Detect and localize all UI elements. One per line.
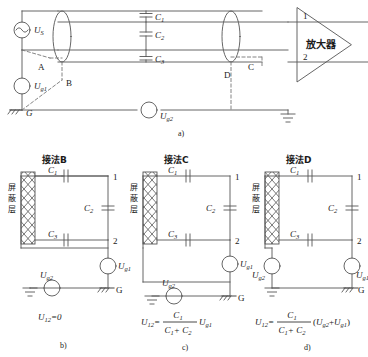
circuit-d-group (264, 170, 360, 296)
c-c2-label: C2 (206, 203, 216, 214)
d-ug2-label: Ug2 (252, 270, 266, 281)
svg-text:C1: C1 (287, 310, 296, 321)
c-ug2-label: Ug2 (162, 278, 176, 289)
b-g-label: G (116, 285, 123, 295)
shield-layer-c (143, 172, 157, 244)
svg-text:C1+ C2: C1+ C2 (165, 325, 193, 336)
ug2-source-symbol (141, 102, 157, 118)
d-terminal-1-label: 1 (357, 172, 362, 182)
circuit-b-group (21, 170, 116, 296)
caption-c: c) (182, 343, 189, 352)
circuit-c-group (143, 170, 238, 304)
caption-b: b) (60, 341, 67, 350)
caption-d: d) (304, 343, 311, 352)
svg-text:C1: C1 (173, 310, 182, 321)
node-a-label: A (38, 62, 45, 72)
ground-g-label: G (26, 108, 33, 118)
circuit-d-title: 接法D (286, 154, 311, 165)
b-ug2-label: Ug2 (40, 270, 54, 281)
shield-label-d: 屏 蔽 层 (252, 183, 260, 214)
c2-label: C2 (155, 30, 165, 41)
b-ug1-label: Ug1 (118, 261, 131, 272)
c-terminal-1-label: 1 (235, 172, 240, 182)
svg-text:蔽: 蔽 (252, 193, 260, 203)
node-b-label: B (66, 78, 72, 88)
d-terminal-2-label: 2 (357, 236, 362, 246)
c-ug1-source-symbol (222, 256, 238, 272)
c3-label: C3 (155, 54, 165, 65)
svg-text:层: 层 (130, 205, 138, 214)
d-g-label: G (358, 285, 365, 295)
amp-terminal-2-label: 2 (303, 52, 308, 62)
node-d-label: D (224, 70, 231, 80)
figure-root: US Ug1 Ug2 G C1 C2 C3 A B C D 1 2 放大器 a)… (0, 0, 368, 357)
cable-right-end-ellipse (222, 11, 240, 62)
ug1-label: Ug1 (34, 81, 47, 92)
c-c1-label: C1 (168, 165, 177, 176)
cable-left-end-ellipse (53, 11, 71, 62)
svg-text:蔽: 蔽 (8, 193, 16, 203)
c-g-ground-hatch (220, 296, 231, 300)
node-c-label: C (248, 62, 254, 72)
d-c3-label: C3 (290, 229, 300, 240)
shield-label-c: 屏 蔽 层 (130, 183, 138, 214)
us-sine-glyph (16, 28, 28, 33)
svg-text:屏: 屏 (130, 183, 138, 192)
amplifier-label: 放大器 (305, 38, 337, 50)
g-ground-hatch (8, 110, 19, 114)
c1-label: C1 (155, 12, 164, 23)
us-label: US (34, 25, 45, 36)
ug2-label: Ug2 (160, 111, 174, 122)
d-g-ground-hatch (342, 288, 353, 292)
svg-text:(Ug2+Ug1): (Ug2+Ug1) (313, 317, 350, 328)
svg-text:层: 层 (252, 205, 260, 214)
svg-text:C1+ C2: C1+ C2 (279, 325, 307, 336)
b-terminal-2-label: 2 (113, 236, 118, 246)
b-c2-label: C2 (84, 203, 94, 214)
node-a-dashed-lead (22, 50, 50, 58)
schematic-svg: US Ug1 Ug2 G C1 C2 C3 A B C D 1 2 放大器 a)… (0, 0, 368, 357)
c-g-label: G (238, 293, 245, 303)
svg-text:U12=: U12= (141, 317, 160, 328)
c-terminal-2-label: 2 (235, 236, 240, 246)
svg-text:U12=: U12= (255, 317, 274, 328)
svg-text:屏: 屏 (8, 183, 16, 192)
d-c2-label: C2 (328, 203, 338, 214)
amp-terminal-1-label: 1 (303, 11, 308, 21)
b-c1-label: C1 (48, 165, 57, 176)
svg-text:Ug1: Ug1 (199, 317, 212, 328)
b-g-ground-hatch (98, 288, 109, 292)
caption-a: a) (178, 129, 185, 138)
svg-text:屏: 屏 (252, 183, 260, 192)
d-c1-label: C1 (290, 165, 299, 176)
b-ug1-source-symbol (100, 258, 116, 274)
c-ug1-label: Ug1 (240, 259, 253, 270)
d-ug1-label: Ug1 (356, 270, 368, 281)
svg-text:层: 层 (8, 205, 16, 214)
shield-label-b: 屏 蔽 层 (8, 183, 16, 214)
ug1-source-symbol (14, 78, 30, 94)
b-formula: U12=0 (38, 312, 62, 323)
c-c3-label: C3 (168, 229, 178, 240)
top-diagram-group (8, 8, 368, 122)
b-terminal-1-label: 1 (113, 172, 118, 182)
shield-layer-d (265, 172, 279, 244)
circuit-c-title: 接法C (164, 154, 189, 165)
d-ug2-source-symbol (264, 258, 280, 274)
d-formula: U12= C1 C1+ C2 (Ug2+Ug1) (255, 310, 350, 336)
circuit-b-title: 接法B (42, 154, 67, 165)
svg-text:蔽: 蔽 (130, 193, 138, 203)
shield-layer-b (21, 172, 35, 244)
c-formula: U12= C1 C1+ C2 Ug1 (141, 310, 212, 336)
b-c3-label: C3 (48, 229, 58, 240)
